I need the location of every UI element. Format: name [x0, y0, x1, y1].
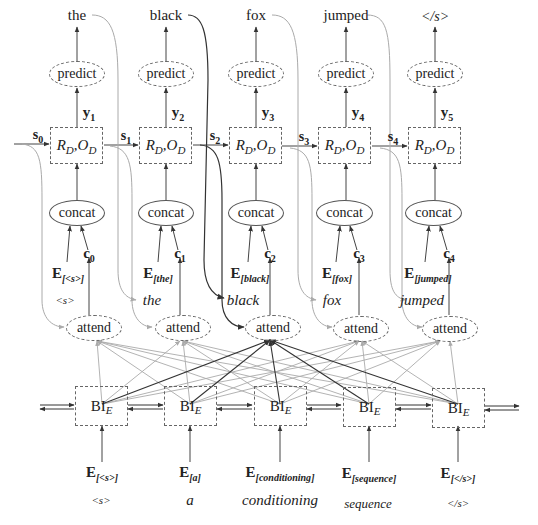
decoder-rnn-box-4: RD, OD	[318, 127, 371, 164]
output-feedback-curve-highlight	[188, 15, 224, 298]
predict-label: predict	[147, 66, 186, 82]
attend-label: attend	[166, 320, 200, 336]
predict-label: predict	[237, 66, 276, 82]
y-label-5: y5	[441, 105, 454, 120]
concat-node-1: concat	[49, 200, 105, 226]
predict-label: predict	[416, 66, 455, 82]
state-label-3: s3	[299, 130, 309, 144]
decoder-embed-label-3: E[black]	[231, 266, 270, 281]
encoder-word-1: <s>	[91, 495, 110, 506]
predict-node-4: predict	[318, 61, 374, 87]
attend-node-3: attend	[245, 315, 301, 341]
output-word-3: fox	[246, 8, 266, 23]
attend-node-2: attend	[155, 315, 211, 341]
encoder-bi-box-3: BIE	[254, 386, 307, 426]
state-label-4: s4	[388, 130, 398, 144]
decoder-input-word-4: fox	[323, 293, 341, 308]
encoder-embed-label-5: E[</s>]	[441, 466, 476, 481]
encoder-bi-box-4: BIE	[343, 387, 396, 427]
encoder-embed-label-4: E[sequence]	[342, 466, 396, 481]
concat-node-4: concat	[316, 200, 373, 226]
decoder-rnn-box-5: RD, OD	[408, 127, 461, 164]
context-label-0: c0	[83, 246, 95, 261]
decoder-rnn-box-2: RD, OD	[139, 127, 192, 164]
rnn-to-predict-arrows	[77, 88, 435, 127]
decoder-embed-label-2: E[the]	[143, 266, 172, 281]
decoder-embed-label-1: E[<s>]	[52, 266, 84, 281]
encoder-word-4: sequence	[344, 497, 392, 510]
encoder-bi-box-5: BIE	[432, 388, 485, 428]
encoder-bi-box-2: BIE	[164, 386, 217, 426]
decoder-input-word-5: jumped	[400, 293, 444, 308]
encoder-word-2: a	[186, 493, 194, 508]
decoder-rnn-box-3: RD, OD	[229, 127, 282, 164]
concat-label: concat	[415, 205, 452, 221]
decoder-input-word-3: black	[227, 293, 259, 308]
concat-node-5: concat	[405, 200, 462, 226]
y-label-4: y4	[352, 105, 365, 120]
state-label-1: s1	[121, 129, 131, 143]
context-label-3: c3	[353, 246, 365, 261]
attend-label: attend	[433, 321, 467, 337]
encoder-embed-label-2: E[a]	[179, 465, 201, 480]
attend-node-4: attend	[333, 316, 389, 342]
predict-label: predict	[58, 66, 97, 82]
encoder-bi-box-1: BIE	[75, 386, 128, 426]
predict-node-5: predict	[407, 61, 463, 87]
predict-label: predict	[327, 66, 366, 82]
context-label-1: c1	[174, 246, 186, 261]
output-word-2: black	[150, 8, 182, 23]
output-word-5: </s>	[421, 10, 449, 24]
encoder-word-5: </s>	[447, 498, 469, 509]
attend-node-5: attend	[422, 316, 478, 342]
encoder-embed-label-3: E[conditioning]	[246, 465, 315, 480]
y-label-3: y3	[262, 105, 275, 120]
encoder-embed-arrows	[102, 426, 458, 462]
attend-label: attend	[344, 321, 378, 337]
context-label-2: c2	[264, 246, 276, 261]
decoder-input-word-2: the	[143, 293, 161, 308]
state-label-0: s0	[33, 128, 43, 142]
attend-node-1: attend	[66, 315, 122, 341]
decoder-rnn-box-1: RD, OD	[50, 127, 103, 164]
decoder-input-word-1: <s>	[55, 295, 74, 306]
attend-label: attend	[77, 320, 111, 336]
concat-label: concat	[59, 205, 96, 221]
predict-node-2: predict	[138, 61, 194, 87]
encoder-word-3: conditioning	[242, 493, 318, 508]
predict-node-1: predict	[49, 61, 105, 87]
attend-label: attend	[256, 320, 290, 336]
decoder-embed-label-5: E[jumped]	[404, 266, 451, 281]
output-word-1: the	[68, 8, 86, 23]
concat-label: concat	[326, 205, 363, 221]
encoder-embed-label-1: E[<s>]	[86, 465, 118, 480]
concat-label: concat	[238, 205, 275, 221]
context-label-4: c4	[443, 246, 455, 261]
y-label-2: y2	[172, 105, 185, 120]
predict-to-output-arrows	[77, 27, 435, 62]
state-label-2: s2	[210, 129, 220, 143]
concat-node-3: concat	[228, 200, 284, 226]
concat-node-2: concat	[138, 200, 194, 226]
concat-label: concat	[148, 205, 185, 221]
output-word-4: jumped	[324, 8, 369, 23]
predict-node-3: predict	[228, 61, 284, 87]
decoder-embed-label-4: E[fox]	[322, 266, 352, 281]
y-label-1: y1	[83, 105, 96, 120]
